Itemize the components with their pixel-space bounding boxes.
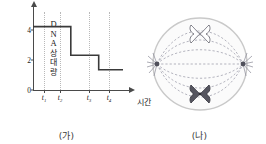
y-tick-label-4: 4 — [27, 26, 31, 35]
step-line-series — [33, 6, 130, 90]
x-axis-line — [33, 90, 130, 91]
dna-amount-chart: D N A 상 대 량 0 2 4 — [33, 12, 123, 90]
cell-illustration — [147, 12, 253, 116]
right-centrosome — [241, 62, 246, 67]
x-tick-label-t1: t₁ — [42, 93, 47, 102]
lower-centromere — [199, 93, 202, 96]
panel-chart: D N A 상 대 량 0 2 4 — [0, 0, 133, 144]
figure-container: D N A 상 대 량 0 2 4 — [0, 0, 266, 144]
x-tick-label-t2: t₂ — [58, 93, 63, 102]
y-tick-label-2: 2 — [27, 56, 31, 65]
panel-cell-diagram: (나) — [133, 0, 266, 144]
x-tick-label-t4: t₄ — [107, 93, 112, 102]
panel-b-caption: (나) — [133, 129, 266, 142]
x-tick-label-t3: t₃ — [87, 93, 92, 102]
panel-a-caption: (가) — [0, 129, 133, 142]
left-centrosome — [155, 62, 160, 67]
upper-centromere — [199, 33, 202, 36]
y-tick-label-0: 0 — [27, 86, 31, 95]
